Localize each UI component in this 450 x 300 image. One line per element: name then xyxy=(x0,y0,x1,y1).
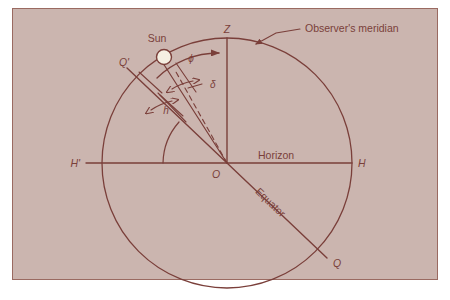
label-equator-pole-upper: Q' xyxy=(119,56,130,68)
label-angle-altitude: h xyxy=(163,105,169,116)
label-horizon-west: H' xyxy=(70,157,81,169)
label-angle-declination: δ xyxy=(210,79,216,90)
label-horizon: Horizon xyxy=(258,149,294,161)
label-observers-meridian: Observer's meridian xyxy=(305,22,399,34)
label-angle-latitude: ϕ xyxy=(188,53,194,64)
plate-background xyxy=(12,8,438,280)
celestial-sphere-diagram: Sun Z Observer's meridian Horizon H H' O… xyxy=(0,0,450,300)
figure-root: Sun Z Observer's meridian Horizon H H' O… xyxy=(0,0,450,300)
label-sun: Sun xyxy=(148,32,167,44)
label-origin: O xyxy=(212,168,220,180)
label-equator-pole-lower: Q xyxy=(333,257,341,269)
sun-disc xyxy=(157,50,172,65)
label-zenith: Z xyxy=(223,23,231,35)
label-horizon-east: H xyxy=(358,157,366,169)
